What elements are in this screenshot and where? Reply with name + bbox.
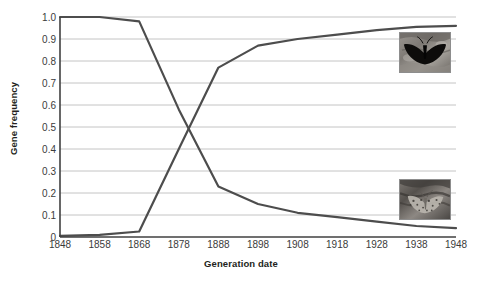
y-tick-0.4: 0.4 <box>26 144 56 155</box>
y-tick-0.2: 0.2 <box>26 188 56 199</box>
series-lines <box>60 17 456 236</box>
y-tick-1.0: 1.0 <box>26 12 56 23</box>
y-tick-0.6: 0.6 <box>26 100 56 111</box>
typica-moth-image <box>400 180 450 219</box>
typica-moth-photo <box>399 179 451 220</box>
plot-area <box>60 17 456 237</box>
x-axis-tick-labels: 1848185818681878188818981908191819281938… <box>0 239 482 257</box>
series-line-0 <box>60 17 456 228</box>
y-tick-0.8: 0.8 <box>26 56 56 67</box>
y-tick-0.9: 0.9 <box>26 34 56 45</box>
y-axis-title-label: Gene frequency <box>9 82 20 155</box>
plot-svg <box>60 17 456 237</box>
y-tick-0.7: 0.7 <box>26 78 56 89</box>
x-tick-1948: 1948 <box>426 239 482 250</box>
x-axis-title: Generation date <box>0 258 482 269</box>
y-tick-0.3: 0.3 <box>26 166 56 177</box>
y-tick-0.5: 0.5 <box>26 122 56 133</box>
gene-frequency-chart: Gene frequency 00.10.20.30.40.50.60.70.8… <box>0 0 482 281</box>
y-tick-0.1: 0.1 <box>26 210 56 221</box>
melanic-moth-photo <box>399 32 451 73</box>
melanic-moth-image <box>400 33 450 72</box>
